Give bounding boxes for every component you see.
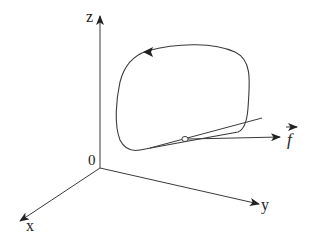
closed-curve	[116, 45, 249, 151]
curve-direction-arrow-icon	[143, 47, 153, 57]
x-axis	[20, 168, 100, 221]
force-label: f	[287, 131, 292, 148]
origin-label: 0	[88, 153, 96, 168]
x-axis-label: x	[26, 218, 34, 234]
force-vector	[188, 137, 280, 139]
z-axis-label: z	[86, 9, 93, 25]
tangent-line	[150, 118, 262, 148]
y-axis-label: y	[261, 197, 269, 213]
y-axis	[100, 168, 259, 204]
point-circle	[182, 137, 188, 142]
